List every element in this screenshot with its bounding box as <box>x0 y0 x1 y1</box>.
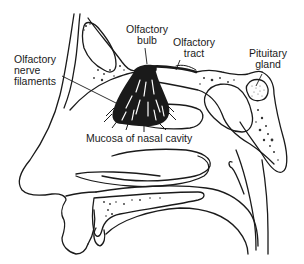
label-olfactory-nerve-filaments: Olfactory nerve filaments <box>14 54 56 87</box>
soft-palate <box>106 208 248 254</box>
inferior-concha <box>76 172 160 176</box>
label-pituitary-gland: Pituitary gland <box>244 48 292 70</box>
upper-lip <box>66 192 96 196</box>
label-olfactory-tract: Olfactory tract <box>170 37 218 59</box>
face-profile <box>19 14 88 254</box>
olfactory-bulb-shape <box>104 65 176 132</box>
label-mucosa-nasal-cavity: Mucosa of nasal cavity <box>86 133 192 144</box>
olfactory-anatomy-diagram: Olfactory bulb Olfactory tract Pituitary… <box>0 0 304 264</box>
cranial-base <box>196 71 262 75</box>
pharynx-wall <box>236 150 256 250</box>
pharynx-wall-2 <box>262 160 268 254</box>
leader-olfactory-bulb <box>145 48 147 64</box>
hard-palate <box>93 192 205 236</box>
pituitary-stipple <box>252 86 265 97</box>
tooth <box>94 228 105 246</box>
label-olfactory-bulb: Olfactory bulb <box>124 24 170 46</box>
sphenoid-sinus <box>204 84 252 132</box>
palate-floor <box>96 186 258 246</box>
inferior-concha-2 <box>76 156 209 187</box>
